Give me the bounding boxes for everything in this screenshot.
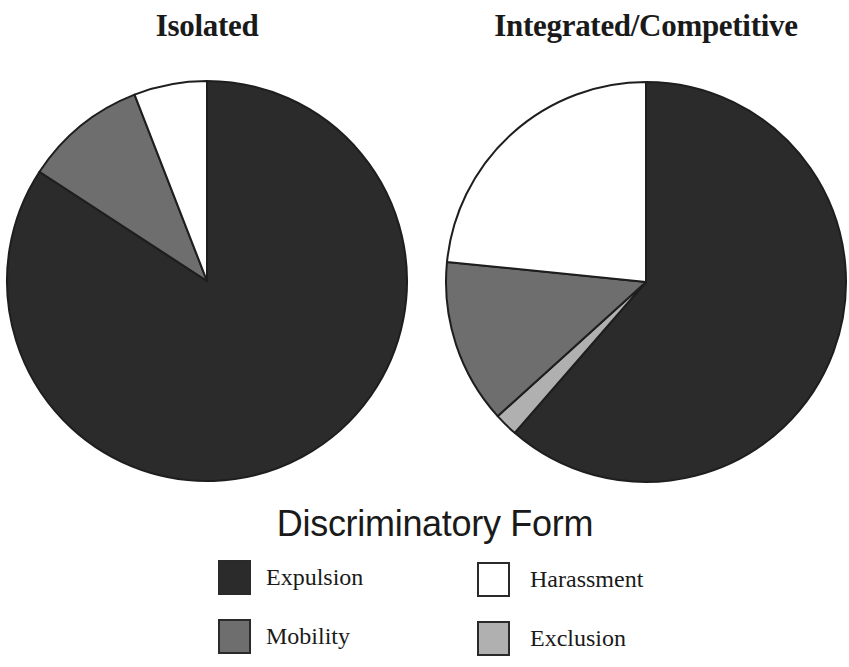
legend-label-mobility: Mobility — [266, 623, 350, 650]
legend-label-expulsion: Expulsion — [266, 564, 363, 591]
legend-item-exclusion: Exclusion — [477, 619, 626, 657]
legend-label-exclusion: Exclusion — [530, 625, 626, 652]
legend-title: Discriminatory Form — [240, 503, 630, 545]
legend-swatch-harassment — [477, 562, 510, 597]
legend-swatch-expulsion — [218, 560, 251, 595]
legend-item-expulsion: Expulsion — [218, 558, 363, 596]
legend-label-harassment: Harassment — [530, 566, 643, 593]
pie-integrated-competitive — [446, 82, 846, 482]
legend-item-harassment: Harassment — [477, 560, 643, 598]
legend-swatch-mobility — [218, 619, 251, 654]
legend-swatch-exclusion — [477, 621, 510, 656]
pie-isolated — [7, 81, 407, 481]
legend-item-mobility: Mobility — [218, 617, 350, 655]
pie-slice-harassment — [447, 82, 646, 282]
pie-charts — [0, 0, 849, 500]
